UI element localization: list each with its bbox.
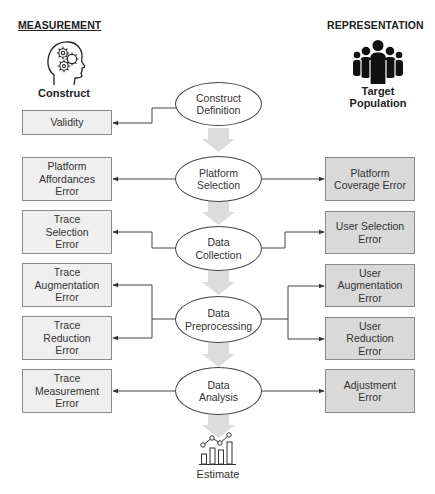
flow-arrow-2 <box>202 201 235 225</box>
chart-estimate-icon <box>199 428 239 466</box>
process-data-preprocessing: Data Preprocessing <box>175 296 262 343</box>
process-data-collection: Data Collection <box>175 226 262 271</box>
process-data-analysis: Data Analysis <box>175 367 262 415</box>
process-platform-selection: Platform Selection <box>175 156 262 202</box>
flow-arrow-3 <box>202 271 235 295</box>
flow-arrow-4 <box>202 343 235 367</box>
flow-arrow-1 <box>202 128 235 152</box>
tse-framework-diagram: MEASUREMENT REPRESENTATION Constru <box>0 0 435 494</box>
process-construct-definition: Construct Definition <box>175 82 262 126</box>
